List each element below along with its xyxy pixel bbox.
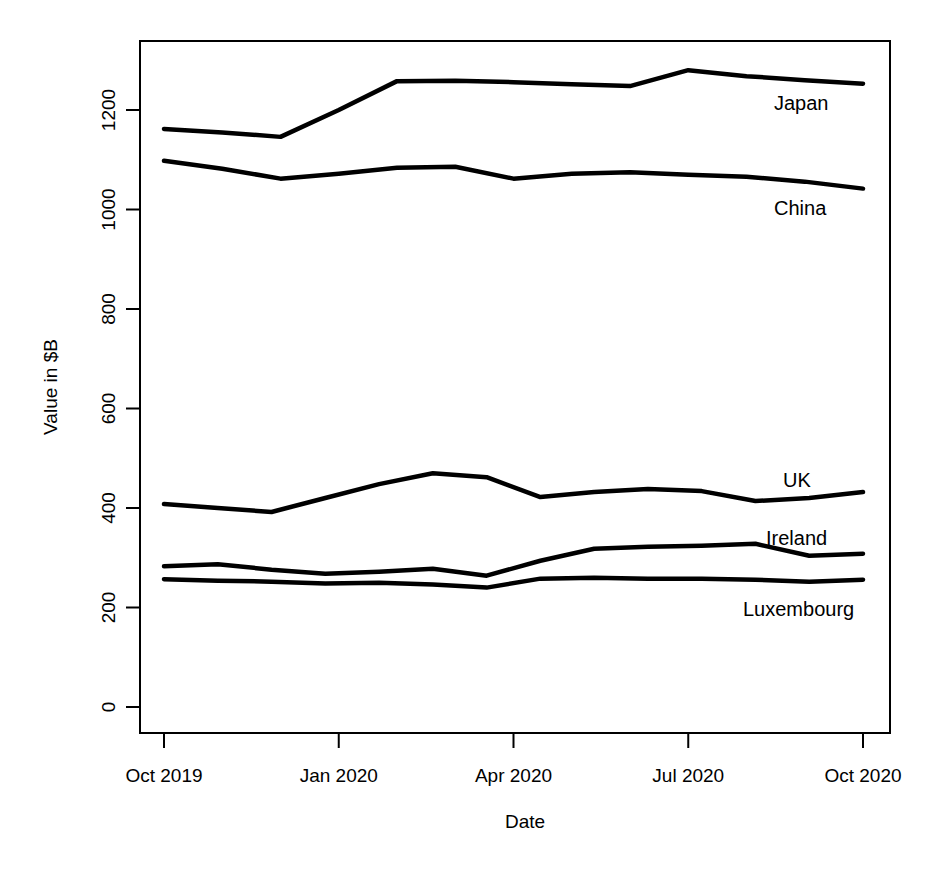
line-chart: 020040060080010001200 Oct 2019Jan 2020Ap… xyxy=(0,0,950,874)
x-tick-label: Jan 2020 xyxy=(300,765,378,786)
series-line-japan xyxy=(164,70,863,137)
series-line-china xyxy=(164,161,863,189)
y-tick-label: 1000 xyxy=(98,188,119,230)
series-line-ireland xyxy=(164,544,863,576)
y-axis-ticks: 020040060080010001200 xyxy=(98,89,141,712)
x-tick-label: Oct 2020 xyxy=(824,765,901,786)
series-line-uk xyxy=(164,473,863,512)
y-tick-label: 1200 xyxy=(98,89,119,131)
series-label-china: China xyxy=(774,197,827,219)
series-label-uk: UK xyxy=(783,469,811,491)
series-label-luxembourg: Luxembourg xyxy=(743,598,854,620)
series-label-group: JapanChinaUKIrelandLuxembourg xyxy=(743,92,854,620)
y-axis-title: Value in $B xyxy=(40,339,61,435)
x-axis-ticks: Oct 2019Jan 2020Apr 2020Jul 2020Oct 2020 xyxy=(125,733,901,786)
y-tick-label: 800 xyxy=(98,293,119,325)
x-tick-label: Apr 2020 xyxy=(475,765,552,786)
chart-container: 020040060080010001200 Oct 2019Jan 2020Ap… xyxy=(0,0,950,874)
series-label-ireland: Ireland xyxy=(766,527,827,549)
series-line-luxembourg xyxy=(164,578,863,588)
series-group xyxy=(164,70,863,587)
x-axis-title: Date xyxy=(505,811,545,832)
y-tick-label: 200 xyxy=(98,592,119,624)
plot-frame xyxy=(140,41,890,733)
y-tick-label: 400 xyxy=(98,492,119,524)
y-tick-label: 600 xyxy=(98,393,119,425)
y-tick-label: 0 xyxy=(98,702,119,713)
series-label-japan: Japan xyxy=(774,92,829,114)
x-tick-label: Oct 2019 xyxy=(125,765,202,786)
x-tick-label: Jul 2020 xyxy=(652,765,724,786)
